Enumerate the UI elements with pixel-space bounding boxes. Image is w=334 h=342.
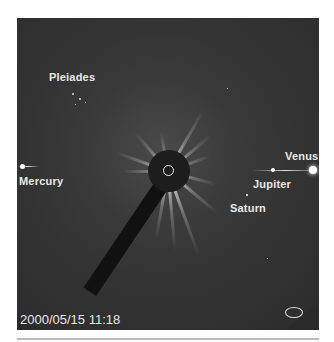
jupiter-dot — [271, 168, 275, 172]
sun-outline-icon — [163, 165, 174, 176]
label-saturn: Saturn — [230, 202, 266, 214]
label-pleiades: Pleiades — [49, 71, 95, 83]
saturn-dot — [246, 194, 248, 196]
label-mercury: Mercury — [19, 175, 63, 187]
soho-lasco-logo-icon — [285, 307, 303, 318]
coronagraph-image: Pleiades Mercury Venus Jupiter Saturn 20… — [17, 18, 319, 330]
timestamp: 2000/05/15 11:18 — [20, 312, 120, 327]
label-venus: Venus — [285, 150, 318, 162]
venus-dot — [309, 166, 317, 174]
divider — [17, 338, 319, 340]
label-jupiter: Jupiter — [253, 178, 291, 190]
